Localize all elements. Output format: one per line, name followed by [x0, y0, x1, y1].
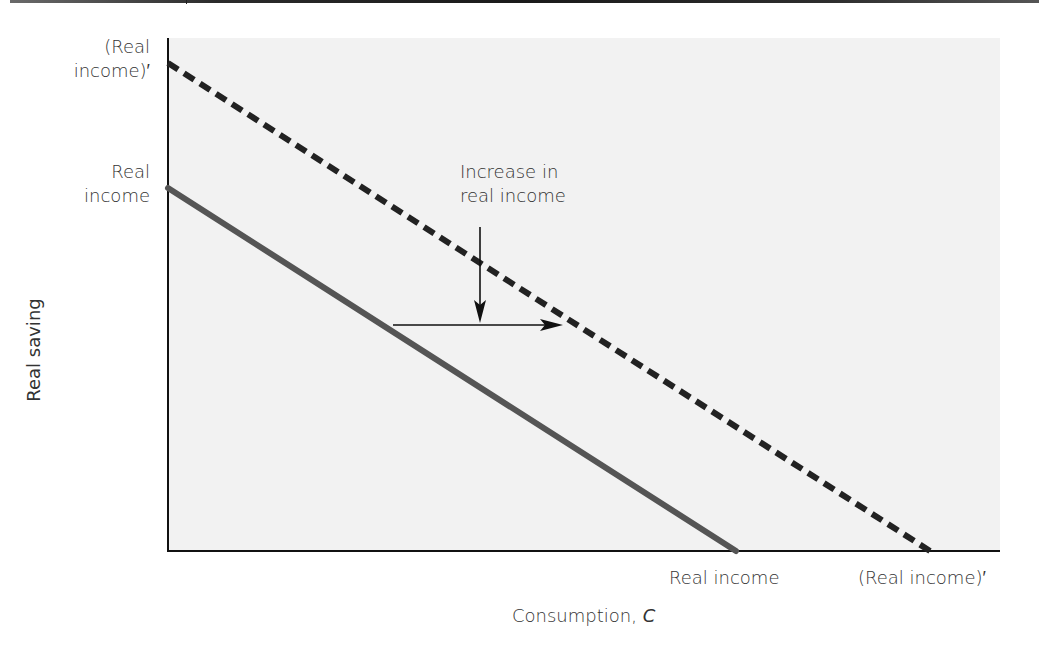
y-label-line: income [40, 184, 150, 208]
annotation-line: Increase in [460, 160, 566, 184]
x-axis-title-variable: C [643, 605, 656, 626]
x-label-real-income: Real income [669, 566, 779, 590]
plot-area [168, 38, 1000, 551]
x-axis-title: Consumption, C [512, 604, 655, 628]
chart-canvas [0, 0, 1049, 650]
y-label-real-income-prime: (Real income)′ [40, 35, 150, 83]
y-label-real-income: Real income [40, 160, 150, 208]
annotation-line: real income [460, 184, 566, 208]
annotation-increase-in-real-income: Increase in real income [460, 160, 566, 208]
y-axis-title: Real saving [23, 298, 44, 401]
y-label-line: (Real [40, 35, 150, 59]
x-label-real-income-prime: (Real income)′ [858, 566, 986, 590]
x-axis-title-text: Consumption, [512, 605, 643, 626]
y-label-line: Real [40, 160, 150, 184]
y-label-line: income)′ [40, 59, 150, 83]
